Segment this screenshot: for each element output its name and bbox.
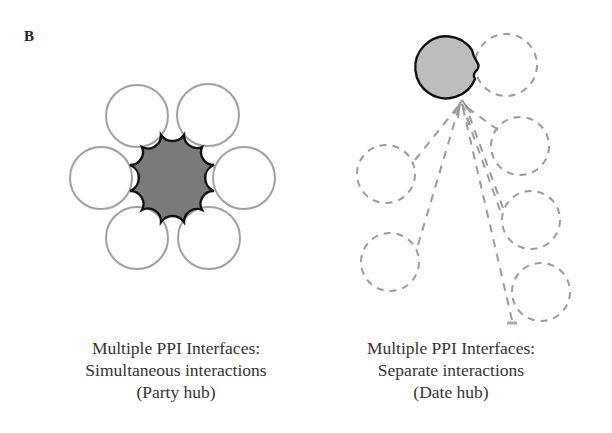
partner-circle: [178, 207, 240, 269]
partner-circle: [106, 207, 168, 269]
partner-circle-dashed: [502, 191, 560, 249]
caption-line: Simultaneous interactions: [46, 359, 306, 381]
partner-circle-dashed: [491, 117, 549, 175]
date-hub-protein: [415, 36, 478, 98]
party-hub-caption: Multiple PPI Interfaces: Simultaneous in…: [46, 337, 306, 403]
partner-circle-dashed: [512, 263, 570, 321]
party-hub-protein: [130, 135, 214, 222]
partner-circle-dashed: [361, 233, 419, 291]
arrow-line: [462, 104, 512, 320]
caption-line: (Party hub): [46, 381, 306, 403]
party-hub-diagram: [70, 84, 275, 269]
date-hub-diagram: [357, 34, 570, 323]
caption-line: (Date hub): [321, 381, 581, 403]
partner-circle-dashed: [357, 145, 415, 203]
partner-circle-dashed: [475, 34, 537, 96]
caption-line: Multiple PPI Interfaces:: [321, 337, 581, 359]
caption-line: Separate interactions: [321, 359, 581, 381]
arrow-line: [415, 104, 460, 160]
partner-circle: [213, 147, 275, 209]
partner-circle: [177, 84, 239, 146]
caption-line: Multiple PPI Interfaces:: [46, 337, 306, 359]
date-hub-caption: Multiple PPI Interfaces: Separate intera…: [321, 337, 581, 403]
partner-circle: [70, 147, 132, 209]
arrow-line: [462, 104, 500, 210]
arrow-line: [418, 104, 460, 245]
interaction-arrows: [415, 104, 512, 320]
partner-circle: [106, 85, 168, 147]
